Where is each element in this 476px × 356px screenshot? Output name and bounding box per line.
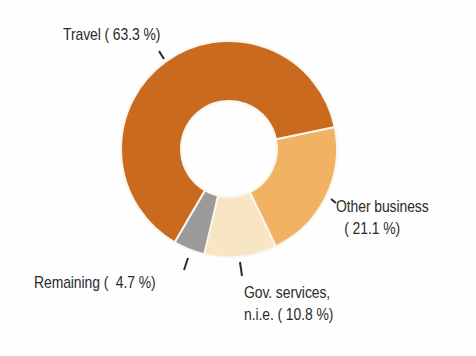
leader-line-remaining [184,258,188,270]
label-gov-services: Gov. services, n.i.e. ( 10.8 %) [244,282,333,326]
label-other-business-name: Other business [336,196,429,218]
label-other-business-value: ( 21.1 %) [336,218,429,240]
label-gov-services-name: Gov. services, [244,282,333,304]
label-travel: Travel ( 63.3 %) [63,24,160,46]
label-other-business: Other business ( 21.1 %) [336,196,429,240]
label-travel-text: Travel ( 63.3 %) [63,24,160,46]
label-remaining: Remaining ( 4.7 %) [34,272,156,294]
donut-chart [0,0,476,356]
label-gov-services-value: n.i.e. ( 10.8 %) [244,304,333,326]
leader-line-travel [159,51,164,59]
donut-slices [121,41,337,257]
leader-line-gov [240,262,242,276]
label-remaining-text: Remaining ( 4.7 %) [34,272,156,294]
